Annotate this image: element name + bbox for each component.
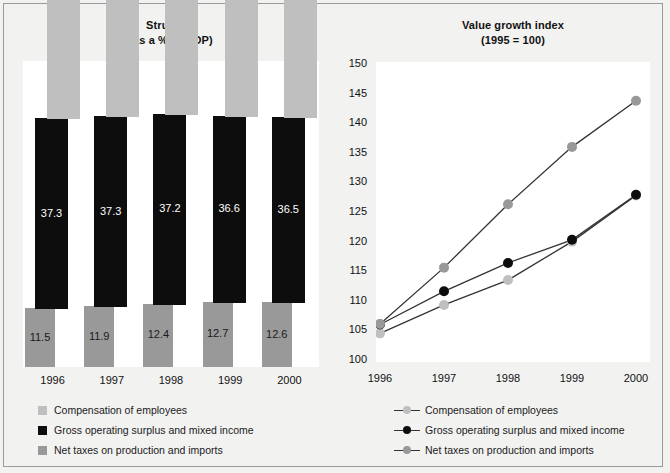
line-y-tick-120: 120: [337, 235, 367, 247]
right-chart-title-line1: Value growth index: [376, 18, 650, 33]
line-legend-marker-icon-2: [394, 446, 420, 455]
bar-net-taxes-2000-value: 12.6: [262, 328, 292, 340]
right-chart-title-line2: (1995 = 100): [376, 33, 650, 48]
line-legend-item-0[interactable]: Compensation of employees: [394, 400, 670, 420]
bar-legend-item-2[interactable]: Net taxes on production and imports: [38, 440, 338, 460]
bar-x-label-2000: 2000: [267, 374, 311, 386]
bar-x-label-1998: 1998: [149, 374, 193, 386]
bar-legend-label-1: Gross operating surplus and mixed income: [54, 424, 254, 436]
bar-net-taxes-1997-value: 11.9: [84, 330, 114, 342]
bar-compensation-2000: 50.9: [284, 0, 317, 118]
line-x-label-1996: 1996: [358, 372, 402, 384]
bar-net-taxes-1996-value: 11.5: [25, 331, 55, 343]
bar-gross-operating-surplus-1998-value: 37.2: [153, 202, 186, 214]
line-legend-marker-icon-1: [394, 426, 420, 435]
bar-gross-operating-surplus-2000-value: 36.5: [272, 203, 305, 215]
line-marker-2-1998: [503, 199, 513, 209]
bar-net-taxes-1999: 12.7: [203, 302, 233, 367]
line-marker-1-2000: [631, 190, 641, 200]
bar-legend-swatch-icon-2: [38, 446, 47, 455]
right-chart-title: Value growth index (1995 = 100): [376, 18, 650, 48]
bar-compensation-1998: 50.4: [165, 0, 198, 115]
bar-net-taxes-1997: 11.9: [84, 306, 114, 367]
line-marker-2-1999: [567, 142, 577, 152]
line-legend-dot-icon-0: [403, 406, 411, 414]
bar-gross-operating-surplus-1996: 37.3: [35, 118, 68, 309]
line-x-label-1998: 1998: [486, 372, 530, 384]
line-y-tick-105: 105: [337, 323, 367, 335]
bar-x-label-1996: 1996: [31, 374, 75, 386]
line-y-tick-130: 130: [337, 175, 367, 187]
bar-legend-swatch-icon-0: [38, 406, 47, 415]
bar-legend-item-1[interactable]: Gross operating surplus and mixed income: [38, 420, 338, 440]
line-legend-item-1[interactable]: Gross operating surplus and mixed income: [394, 420, 670, 440]
line-y-tick-125: 125: [337, 205, 367, 217]
bar-gross-operating-surplus-1998: 37.2: [153, 114, 186, 304]
bar-gross-operating-surplus-1996-value: 37.3: [35, 207, 68, 219]
bar-legend-swatch-icon-1: [38, 426, 47, 435]
bar-chart-legend: Compensation of employeesGross operating…: [38, 400, 338, 460]
line-y-tick-150: 150: [337, 57, 367, 69]
line-chart-svg: [376, 62, 650, 362]
line-legend-label-1: Gross operating surplus and mixed income: [425, 424, 625, 436]
bar-x-label-1997: 1997: [90, 374, 134, 386]
line-chart-legend: Compensation of employeesGross operating…: [394, 400, 670, 460]
line-x-label-1997: 1997: [422, 372, 466, 384]
bar-gross-operating-surplus-2000: 36.5: [272, 117, 305, 304]
line-legend-label-2: Net taxes on production and imports: [425, 444, 594, 456]
line-marker-2-1997: [439, 263, 449, 273]
bar-net-taxes-1996: 11.5: [25, 308, 55, 367]
line-x-label-1999: 1999: [550, 372, 594, 384]
line-y-tick-115: 115: [337, 264, 367, 276]
line-x-label-2000: 2000: [614, 372, 658, 384]
bar-net-taxes-1998-value: 12.4: [143, 328, 173, 340]
line-marker-0-1996: [376, 328, 385, 338]
bar-gross-operating-surplus-1997: 37.3: [94, 116, 127, 307]
line-chart-plot-area: [376, 62, 650, 362]
line-legend-dot-icon-1: [403, 426, 411, 434]
line-y-tick-145: 145: [337, 87, 367, 99]
line-marker-0-1998: [503, 275, 513, 285]
line-marker-1-1999: [567, 235, 577, 245]
figure-frame: Structure (as a % of GDP) 11.537.351.211…: [3, 3, 663, 467]
line-marker-2-2000: [631, 96, 641, 106]
bar-net-taxes-2000: 12.6: [262, 302, 292, 367]
line-y-tick-100: 100: [337, 353, 367, 365]
bar-chart-plot-area: 11.537.351.211.937.350.812.437.250.412.7…: [23, 61, 319, 367]
bar-gross-operating-surplus-1997-value: 37.3: [94, 205, 127, 217]
bar-net-taxes-1999-value: 12.7: [203, 327, 233, 339]
bar-x-label-1999: 1999: [208, 374, 252, 386]
bar-legend-label-0: Compensation of employees: [54, 404, 187, 416]
bar-net-taxes-1998: 12.4: [143, 304, 173, 367]
line-y-tick-140: 140: [337, 116, 367, 128]
line-legend-marker-icon-0: [394, 406, 420, 415]
line-marker-0-1997: [439, 300, 449, 310]
bar-compensation-1999: 50.7: [225, 0, 258, 117]
line-series-path-2: [380, 101, 636, 324]
bar-gross-operating-surplus-1999-value: 36.6: [213, 202, 246, 214]
line-marker-1-1997: [439, 286, 449, 296]
bar-legend-item-0[interactable]: Compensation of employees: [38, 400, 338, 420]
line-legend-label-0: Compensation of employees: [425, 404, 558, 416]
line-y-tick-110: 110: [337, 294, 367, 306]
bar-gross-operating-surplus-1999: 36.6: [213, 116, 246, 303]
bar-compensation-1996: 51.2: [47, 0, 80, 119]
line-legend-item-2[interactable]: Net taxes on production and imports: [394, 440, 670, 460]
bar-compensation-1997: 50.8: [106, 0, 139, 117]
line-y-tick-135: 135: [337, 146, 367, 158]
line-legend-dot-icon-2: [403, 446, 411, 454]
bar-legend-label-2: Net taxes on production and imports: [54, 444, 223, 456]
line-marker-1-1998: [503, 258, 513, 268]
